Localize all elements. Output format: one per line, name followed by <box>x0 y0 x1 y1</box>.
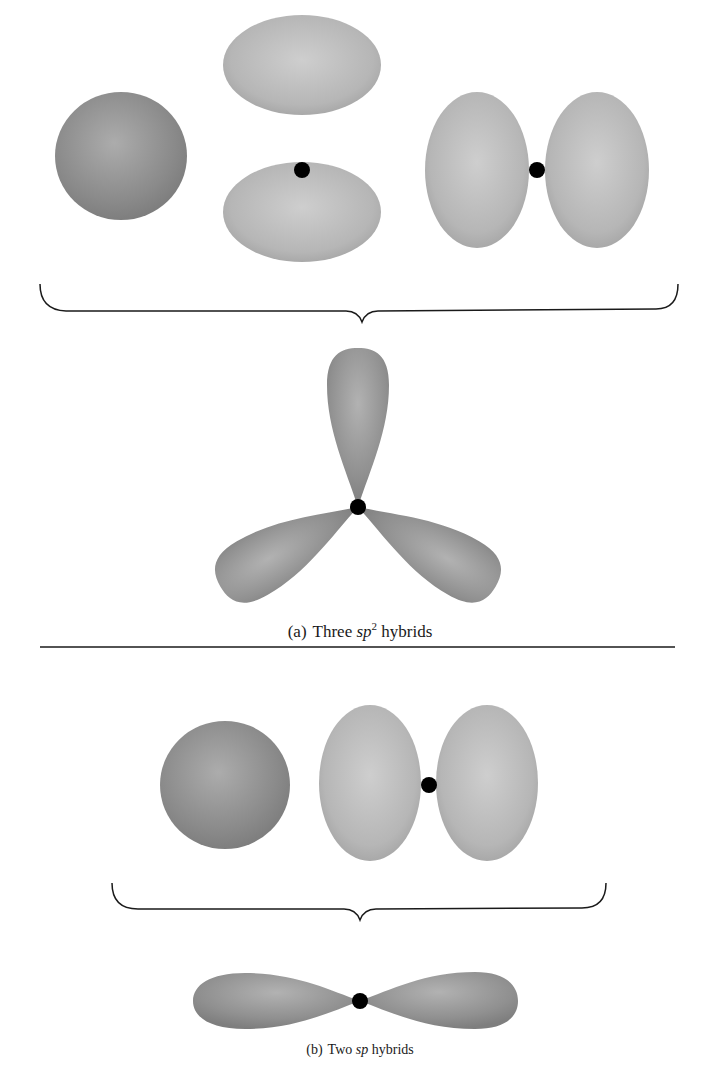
nucleus-icon <box>352 993 368 1009</box>
panel-a: (a)Three sp2 hybrids <box>40 15 678 641</box>
nucleus-icon <box>421 777 437 793</box>
orbital-hybridization-figure: (a)Three sp2 hybrids (b)Two sp hybrids <box>0 0 714 1091</box>
combination-brace-a <box>40 284 678 322</box>
sp2-lobe-up <box>327 348 389 507</box>
nucleus-icon <box>529 162 545 178</box>
p-orbital-horizontal <box>425 92 649 248</box>
panel-b: (b)Two sp hybrids <box>112 705 606 1058</box>
s-orbital-a <box>55 92 187 220</box>
nucleus-icon <box>294 162 310 178</box>
sp-hybrids <box>193 972 518 1029</box>
sp2-hybrids <box>205 348 511 613</box>
p-orbital-vertical <box>223 15 381 262</box>
sp2-lobe-right <box>343 480 512 613</box>
caption-b: (b)Two sp hybrids <box>306 1042 413 1058</box>
combination-brace-b <box>112 883 606 920</box>
nucleus-icon <box>350 499 366 515</box>
sp2-lobe-left <box>205 480 374 613</box>
sp-lobe-right <box>360 972 518 1029</box>
sp-lobe-left <box>193 973 360 1029</box>
s-orbital-b <box>160 721 290 849</box>
p-orbital-horizontal-b <box>319 705 538 861</box>
caption-a: (a)Three sp2 hybrids <box>288 620 433 641</box>
